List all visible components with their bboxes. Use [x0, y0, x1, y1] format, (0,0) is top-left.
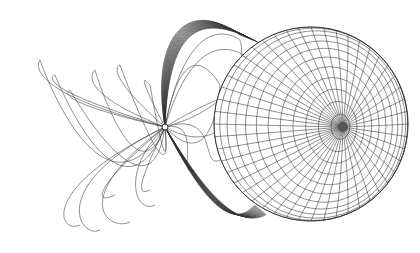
orbit-illustration — [0, 0, 420, 253]
wireframe-sphere — [214, 27, 408, 221]
diagram-figure — [0, 0, 420, 253]
small-body — [162, 124, 168, 130]
